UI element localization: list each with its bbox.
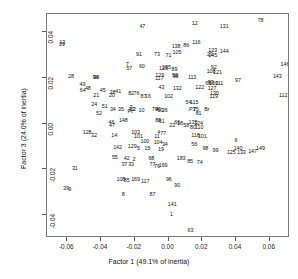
scatter-point-label: 74 (197, 160, 203, 165)
plot-area: 7812131471329116861381051231442314591737… (46, 13, 289, 237)
scatter-point-label: 1 (170, 212, 173, 217)
scatter-point-label: 96 (93, 76, 99, 81)
scatter-point-label: 143 (273, 74, 282, 79)
chart-title (0, 0, 298, 7)
scatter-point-label: 149 (256, 147, 265, 152)
scatter-point-label: 96 (166, 178, 172, 183)
y-axis-tick-label: 0.04 (47, 31, 54, 43)
y-axis-tick (42, 31, 46, 32)
scatter-point-label: 29 (59, 42, 65, 47)
y-axis-tick (42, 123, 46, 124)
scatter-point-label: 87 (150, 192, 156, 197)
scatter-point-label: 47 (139, 24, 145, 29)
scatter-point-label: 146 (281, 63, 289, 68)
scatter-point-label: 133 (237, 150, 246, 155)
y-axis-tick-label: 0.02 (47, 77, 54, 89)
scatter-point-label: 26 (162, 108, 168, 113)
x-axis-tick (269, 237, 270, 241)
correspondence-analysis-figure: 7812131471329116861381051231442314591737… (0, 0, 298, 279)
scatter-point-label: 105 (173, 50, 182, 55)
scatter-point-label: 129 (128, 144, 137, 149)
scatter-point-label: 52 (96, 111, 102, 116)
x-axis-tick-label: 0.04 (229, 243, 241, 250)
scatter-point-label: 121 (213, 71, 222, 76)
scatter-point-label: 169 (131, 178, 140, 183)
x-axis-tick-label: 0.06 (263, 243, 275, 250)
scatter-point-label: 57 (126, 67, 132, 72)
scatter-point-label: 101 (198, 135, 207, 140)
scatter-point-label: 76 (134, 92, 140, 97)
scatter-point-label: 24 (91, 102, 97, 107)
scatter-point-label: Pt (128, 109, 133, 114)
scatter-point-label: 10 (139, 108, 145, 113)
scatter-point-label: 113 (188, 75, 196, 80)
scatter-point-label: 32 (91, 133, 97, 138)
scatter-point-label: 115 (190, 100, 198, 105)
scatter-point-label: 144 (220, 49, 229, 54)
x-axis-tick-label: -0.04 (93, 243, 108, 250)
scatter-point-label: 97 (235, 78, 241, 83)
scatter-point-label: 112 (279, 93, 287, 98)
scatter-point-label: 6 (235, 138, 238, 143)
scatter-point-label: 102 (164, 95, 173, 100)
scatter-point-label: 86 (183, 43, 189, 48)
scatter-point-label: 91 (136, 52, 142, 57)
scatter-point-label: 5 (137, 147, 140, 152)
x-axis-tick (100, 237, 101, 241)
y-axis-tick-label: 0.00 (47, 123, 54, 135)
scatter-point-label: 116 (192, 40, 200, 45)
y-axis-tick-label: -0.02 (49, 168, 56, 183)
scatter-point-label: 61 (159, 119, 165, 124)
x-axis-tick (168, 237, 169, 241)
scatter-point-label: 47 (109, 123, 115, 128)
y-axis-title: Factor 3 (24.0% of inertia) (20, 59, 27, 199)
scatter-point-label: 77 (160, 131, 166, 136)
scatter-point-label: 63 (188, 228, 194, 233)
x-axis-tick-label: -0.06 (59, 243, 74, 250)
scatter-point-label: 85 (187, 159, 193, 164)
scatter-point-label: 85 (124, 179, 130, 184)
scatter-point-label: 45 (100, 88, 106, 93)
x-axis-tick-label: 0.02 (195, 243, 207, 250)
scatter-point-label: 64 (80, 88, 86, 93)
scatter-point-label: 28 (68, 74, 74, 79)
x-axis-tick (134, 237, 135, 241)
scatter-point-label: 183 (177, 156, 186, 161)
x-axis-tick (66, 237, 67, 241)
x-axis-tick-label: -0.02 (126, 243, 141, 250)
scatter-point-label: 122 (195, 86, 204, 91)
scatter-point-label: 33 (128, 163, 134, 168)
scatter-point-label: 20 (109, 93, 115, 98)
scatter-point-label: 34 (110, 108, 116, 113)
scatter-point-label: 142 (113, 145, 122, 150)
scatter-point-label: 60 (139, 64, 145, 69)
scatter-point-label: 148 (119, 118, 128, 123)
scatter-point-label: 99 (213, 148, 219, 153)
scatter-point-label: 131 (220, 24, 229, 29)
scatter-point-label: 18 (177, 121, 183, 126)
scatter-point-label: 55 (112, 156, 118, 161)
scatter-point-label: 73 (154, 52, 160, 57)
scatter-point-label: 117 (155, 76, 163, 81)
y-axis-tick (42, 168, 46, 169)
scatter-point-label: 169 (159, 163, 168, 168)
scatter-point-label: 135 (162, 65, 171, 70)
scatter-point-label: 35 (118, 108, 124, 113)
x-axis-title: Factor 1 (49.1% of inertia) (0, 258, 298, 265)
scatter-point-label: 31 (72, 166, 78, 171)
y-axis-tick-label: -0.04 (49, 214, 56, 229)
scatter-point-label: 132 (173, 87, 182, 92)
x-axis-tick (235, 237, 236, 241)
scatter-point-label: 145 (208, 53, 217, 58)
scatter-point-label: 100 (141, 140, 150, 145)
scatter-point-label: 2 (133, 107, 136, 112)
scatter-point-label: 90 (174, 183, 180, 188)
scatter-point-label: 141 (168, 202, 177, 207)
scatter-point-label: 50 (172, 73, 178, 78)
scatter-point-label: 117 (141, 179, 149, 184)
scatter-point-label: 71 (166, 53, 172, 58)
scatter-point-label: 16 (145, 95, 151, 100)
scatter-point-label: 22 (169, 123, 175, 128)
scatter-point-label: 21 (93, 93, 99, 98)
scatter-point-label: 58 (183, 124, 189, 129)
